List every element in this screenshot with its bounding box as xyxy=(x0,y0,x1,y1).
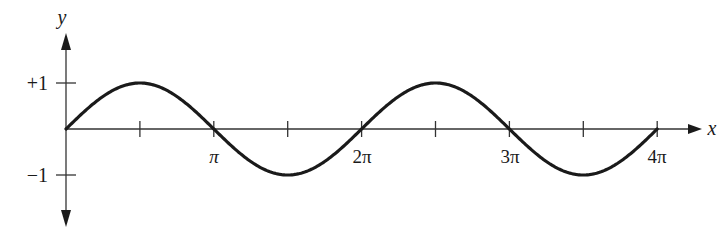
sine-chart: y x +1 −1 π 2π 3π 4π xyxy=(0,0,726,235)
y-axis-down-arrow-icon xyxy=(61,210,71,227)
x-axis-label: x xyxy=(707,117,717,139)
x-tick-label-pi: π xyxy=(209,146,219,167)
tick-labels: y x +1 −1 π 2π 3π 4π xyxy=(27,6,717,186)
y-tick-label-plus-1: +1 xyxy=(27,72,48,94)
x-tick-label-2pi: 2π xyxy=(352,146,372,167)
y-axis-up-arrow-icon xyxy=(61,33,71,50)
x-tick-label-4pi: 4π xyxy=(647,146,667,167)
x-axis-arrow-icon xyxy=(688,124,702,134)
y-axis-label: y xyxy=(56,6,67,29)
x-tick-label-3pi: 3π xyxy=(500,146,520,167)
axes xyxy=(56,33,702,227)
y-tick-label-minus-1: −1 xyxy=(27,164,48,186)
